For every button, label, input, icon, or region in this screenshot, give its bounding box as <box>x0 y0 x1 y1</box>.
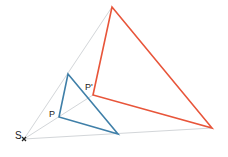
homothety-diagram <box>0 0 228 157</box>
vertex-label-p: P <box>49 110 55 119</box>
vertex-label-p-prime: P' <box>85 83 93 92</box>
center-label-s: S <box>15 131 22 141</box>
image-triangle <box>93 7 212 128</box>
